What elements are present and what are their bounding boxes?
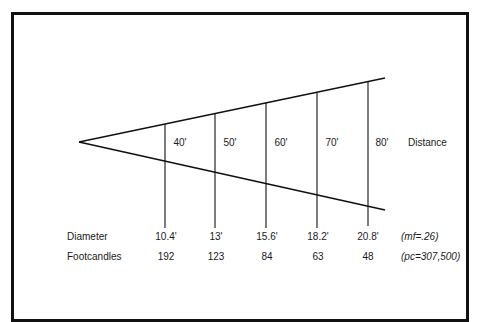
diameter-value-80: 20.8' (357, 231, 378, 243)
multiplying-factor-note: (mf=.26) (401, 231, 439, 243)
diameter-value-60: 15.6' (256, 231, 277, 243)
diameter-value-70: 18.2' (307, 231, 328, 243)
footcandles-value-50: 123 (208, 251, 225, 263)
diameter-row-label: Diameter (67, 231, 108, 243)
footcandles-row-label: Footcandles (67, 251, 121, 263)
distance-label-80: 80' (375, 137, 388, 149)
beam-spread-diagram (0, 0, 482, 322)
peak-candela-note: (pc=307,500) (401, 251, 460, 263)
distance-label-50: 50' (223, 137, 236, 149)
footcandles-value-70: 63 (312, 251, 323, 263)
distance-label-70: 70' (325, 137, 338, 149)
diameter-value-40: 10.4' (155, 231, 176, 243)
footcandles-value-40: 192 (158, 251, 175, 263)
distance-axis-label: Distance (408, 137, 447, 149)
distance-label-60: 60' (274, 137, 287, 149)
footcandles-value-80: 48 (362, 251, 373, 263)
lower-beam-edge (79, 142, 385, 210)
diameter-value-50: 13' (209, 231, 222, 243)
distance-label-40: 40' (173, 137, 186, 149)
footcandles-value-60: 84 (261, 251, 272, 263)
upper-beam-edge (79, 78, 385, 142)
